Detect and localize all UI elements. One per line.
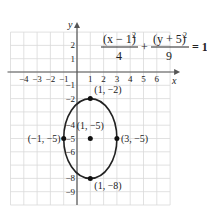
point-label: (1, −8) <box>94 180 121 192</box>
equation-term1-denominator: 4 <box>116 49 122 63</box>
equation-term2-numerator: (y + 5) <box>153 32 186 46</box>
x-tick-label: 2 <box>101 74 106 84</box>
x-axis-label: x <box>171 75 177 86</box>
equation-term2-exponent: 2 <box>183 31 187 40</box>
point-label: (1, −5) <box>77 120 104 132</box>
y-tick-label: 1 <box>71 54 76 64</box>
x-tick-label: −3 <box>32 74 42 84</box>
y-tick-label: 2 <box>71 40 76 50</box>
equation: (x − 1) 2 4 + (y + 5) 2 9 = 1 <box>101 31 207 63</box>
point-label: (3, −5) <box>121 133 148 145</box>
equation-term1-numerator: (x − 1) <box>103 32 136 46</box>
equation-plus: + <box>141 40 148 54</box>
x-tick-label: 4 <box>128 74 133 84</box>
point-marker <box>88 176 93 181</box>
ellipse-graph: xy −4−3−2−112345621−1−2−4−5−6−8−9 (1, −2… <box>0 0 207 212</box>
y-tick-label: −2 <box>65 94 75 104</box>
y-tick-label: −5 <box>65 134 75 144</box>
x-tick-label: 1 <box>88 74 93 84</box>
y-tick-label: −8 <box>65 173 75 183</box>
x-tick-label: −4 <box>19 74 29 84</box>
y-axis-label: y <box>67 19 73 30</box>
equation-term2-denominator: 9 <box>166 49 172 63</box>
y-tick-label: −4 <box>65 120 75 130</box>
y-axis-arrow-icon <box>74 22 80 28</box>
point-label: (−1, −5) <box>28 133 61 145</box>
y-tick-label: −1 <box>65 80 75 90</box>
point-marker <box>61 136 66 141</box>
point-marker <box>88 136 93 141</box>
x-tick-label: 5 <box>141 74 146 84</box>
x-tick-label: −2 <box>46 74 56 84</box>
point-marker <box>114 136 119 141</box>
y-tick-label: −9 <box>65 187 75 197</box>
point-marker <box>88 96 93 101</box>
x-tick-label: 3 <box>115 74 120 84</box>
y-tick-label: −6 <box>65 147 75 157</box>
x-tick-label: 6 <box>155 74 160 84</box>
equation-term1-exponent: 2 <box>132 31 136 40</box>
equation-rhs: = 1 <box>192 40 207 54</box>
point-label: (1, −2) <box>94 84 121 96</box>
